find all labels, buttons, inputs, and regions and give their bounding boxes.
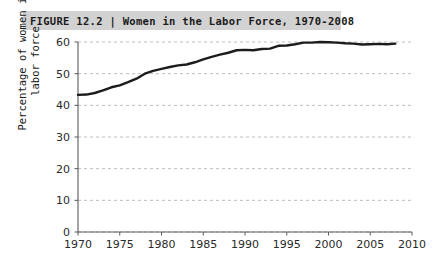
y-tick-label: 0	[48, 226, 70, 239]
x-tick-label: 2010	[398, 238, 426, 251]
y-tick-label: 50	[48, 67, 70, 80]
x-tick-label: 2000	[315, 238, 343, 251]
x-tick-label: 1990	[231, 238, 259, 251]
figure-container: FIGURE 12.2 | Women in the Labor Force, …	[0, 0, 443, 261]
x-tick-label: 1985	[189, 238, 217, 251]
data-series-line	[78, 42, 395, 95]
x-tick-label: 2005	[356, 238, 384, 251]
x-tick-label: 1995	[273, 238, 301, 251]
x-tick-label: 1975	[106, 238, 134, 251]
y-tick-label: 40	[48, 99, 70, 112]
y-tick-label: 20	[48, 162, 70, 175]
y-tick-label: 30	[48, 131, 70, 144]
x-tick-label: 1980	[148, 238, 176, 251]
x-tick-label: 1970	[64, 238, 92, 251]
chart-plot-area: Percentage of women in labor force 01020…	[0, 0, 443, 261]
y-tick-label: 10	[48, 194, 70, 207]
tick-marks	[75, 42, 413, 236]
y-tick-label: 60	[48, 36, 70, 49]
gridlines	[78, 42, 412, 232]
